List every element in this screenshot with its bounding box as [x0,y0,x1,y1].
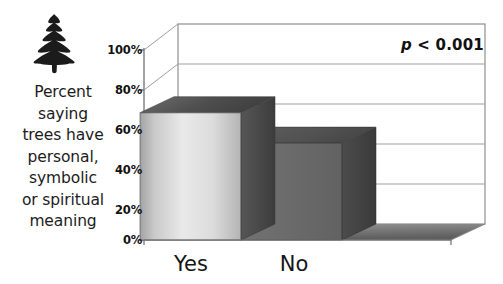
p-value-annotation: p < 0.001 [401,36,484,54]
y-tick-label-100: 100% [96,43,142,57]
x-axis-tick-labels: Yes No [96,252,498,284]
p-value-rest: < 0.001 [412,36,484,54]
y-tick-label-80: 80% [96,83,142,97]
chart-figure: Percent saying trees have personal, symb… [0,0,503,284]
x-tick-label-yes: Yes [148,252,234,276]
p-value-symbol: p [401,36,412,54]
y-tick-label-60: 60% [96,123,142,137]
bar-yes [140,97,275,240]
y-tick-label-0: 0% [96,233,142,247]
pine-tree-icon [26,12,82,74]
x-tick-label-no: No [251,252,337,276]
bar-yes-side [241,97,275,240]
bar-yes-front [140,113,241,240]
bar-no-side [342,127,376,240]
plot-area: 100% 80% 60% 40% 20% 0% p < 0.001 Yes No [96,10,498,280]
y-tick-label-20: 20% [96,203,142,217]
y-axis-tick-labels: 100% 80% 60% 40% 20% 0% [96,10,142,260]
x-axis-ticks [144,240,451,245]
y-tick-label-40: 40% [96,163,142,177]
